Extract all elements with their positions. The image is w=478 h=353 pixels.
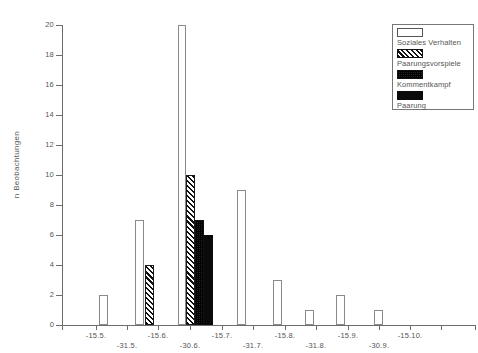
bar-open — [178, 25, 186, 325]
y-tick-label: 8 — [2, 201, 54, 209]
bar-dots — [195, 220, 204, 325]
x-tick-label-upper: -15.7. — [198, 332, 246, 340]
y-tick-label: 20 — [2, 21, 54, 29]
y-tick-label: 6 — [2, 231, 54, 239]
legend-swatch-hatch — [397, 49, 423, 58]
x-tick — [475, 325, 476, 330]
legend-swatch-dots — [397, 70, 423, 79]
bar-open — [336, 295, 345, 325]
x-tick-label-lower: -30.9. — [355, 342, 403, 350]
bar-solid — [204, 235, 213, 325]
legend-swatch-open — [397, 28, 423, 37]
y-tick-label: 12 — [2, 141, 54, 149]
x-tick-label-lower: -31.7. — [229, 342, 277, 350]
x-tick-label-upper: -15.5. — [72, 332, 120, 340]
x-tick-label-upper: -15.6. — [134, 332, 182, 340]
y-tick-label: 0 — [2, 321, 54, 329]
bar-open — [135, 220, 144, 325]
bar-open — [237, 190, 246, 325]
legend-item: Paarung — [397, 91, 470, 110]
bar-open — [99, 295, 108, 325]
legend-item: Soziales Verhalten — [397, 28, 470, 47]
legend-label: Kommentkampf — [397, 80, 470, 89]
chart-canvas: n Beobachtungen 02468101214161820 -15.5.… — [0, 0, 478, 353]
x-tick-label-upper: -15.9. — [324, 332, 372, 340]
bar-open — [305, 310, 314, 325]
y-tick-label: 14 — [2, 111, 54, 119]
bar-hatch — [186, 175, 195, 325]
bar-open — [374, 310, 383, 325]
x-tick-label-lower: -31.5. — [103, 342, 151, 350]
legend-label: Paarungsvorspiele — [397, 59, 470, 68]
x-tick-label-upper: -15.10. — [386, 332, 434, 340]
legend-item: Kommentkampf — [397, 70, 470, 89]
y-tick-label: 18 — [2, 51, 54, 59]
bar-open — [273, 280, 282, 325]
y-tick-label: 16 — [2, 81, 54, 89]
x-tick-label-upper: -15.8. — [261, 332, 309, 340]
bar-hatch — [145, 265, 154, 325]
legend-label: Paarung — [397, 101, 470, 110]
legend-swatch-solid — [397, 91, 423, 100]
chart-legend: Soziales VerhaltenPaarungsvorspieleKomme… — [392, 24, 474, 110]
legend-label: Soziales Verhalten — [397, 38, 470, 47]
legend-item: Paarungsvorspiele — [397, 49, 470, 68]
x-axis-line — [62, 325, 475, 326]
x-tick-label-lower: -30.6. — [166, 342, 214, 350]
y-tick-label: 4 — [2, 261, 54, 269]
x-tick-label-lower: -31.8. — [292, 342, 340, 350]
y-tick-label: 2 — [2, 291, 54, 299]
y-tick-label: 10 — [2, 171, 54, 179]
